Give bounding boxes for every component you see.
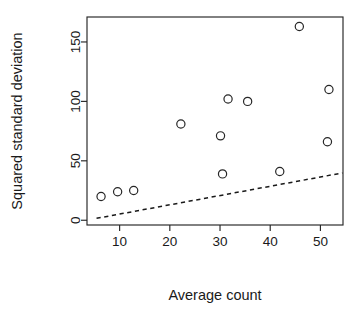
data-point-3 <box>177 120 185 128</box>
y-tick-label-100: 100 <box>68 90 83 113</box>
data-point-2 <box>130 186 138 194</box>
data-point-8 <box>276 167 284 175</box>
data-point-7 <box>244 97 252 105</box>
y-tick-label-0: 0 <box>68 216 83 224</box>
x-tick-label-30: 30 <box>213 234 228 249</box>
data-point-9 <box>295 22 303 30</box>
data-point-0 <box>97 192 105 200</box>
x-axis-tick-labels: 1020304050 <box>112 234 328 249</box>
y-axis-title: Squared standard deviation <box>9 32 25 209</box>
x-axis-title: Average count <box>168 287 261 303</box>
data-point-5 <box>218 170 226 178</box>
x-tick-label-50: 50 <box>313 234 328 249</box>
data-point-1 <box>114 188 122 196</box>
plot-frame-box <box>87 17 343 225</box>
y-axis-tick-labels: 050100150 <box>68 31 83 224</box>
x-tick-label-20: 20 <box>162 234 177 249</box>
data-point-10 <box>325 85 333 93</box>
plot-canvas: 050100150 1020304050 Average count Squar… <box>0 0 360 314</box>
trend-line-dashed <box>97 173 343 218</box>
y-tick-label-150: 150 <box>68 31 83 54</box>
x-tick-label-40: 40 <box>263 234 278 249</box>
y-axis-ticks <box>81 42 87 220</box>
y-tick-label-50: 50 <box>68 153 83 168</box>
data-point-4 <box>216 132 224 140</box>
data-points-group <box>97 22 333 200</box>
x-tick-label-10: 10 <box>112 234 127 249</box>
data-point-11 <box>323 138 331 146</box>
data-point-6 <box>224 95 232 103</box>
x-axis-ticks <box>120 225 321 231</box>
scatter-plot-figure: 050100150 1020304050 Average count Squar… <box>0 0 360 314</box>
